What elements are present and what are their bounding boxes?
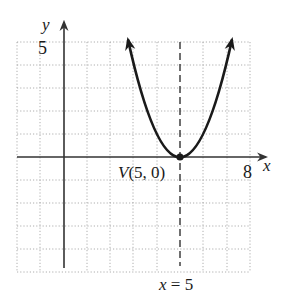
axis-of-symmetry-label: x = 5 <box>158 275 193 294</box>
y-tick-label-5: 5 <box>38 38 47 58</box>
parabola-graph: y 5 8 x V(5, 0) x = 5 <box>0 0 284 300</box>
x-tick-label-8: 8 <box>243 162 252 182</box>
vertex-coords: (5, 0) <box>128 163 165 182</box>
vertex-label: V(5, 0) <box>118 163 165 182</box>
x-axis-label: x <box>262 156 271 175</box>
y-axis-label: y <box>40 15 50 34</box>
vertex-point <box>176 153 183 160</box>
